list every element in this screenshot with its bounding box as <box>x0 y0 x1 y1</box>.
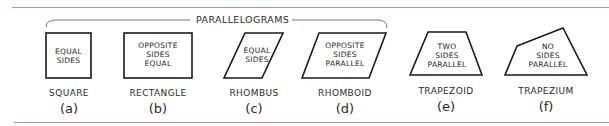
trapezoid-letter: (e) <box>406 99 486 114</box>
square-description: EQUAL SIDES <box>46 47 91 65</box>
square-name: SQUARE <box>33 88 105 98</box>
trapezium-letter: (f) <box>506 99 586 114</box>
square-letter: (a) <box>33 101 105 116</box>
trapezium-description: NO SIDES PARALLEL <box>515 42 581 69</box>
trapezoid-name: TRAPEZOID <box>406 86 486 96</box>
trapezoid-description: TWO SIDES PARALLEL <box>414 42 480 69</box>
rectangle-letter: (b) <box>118 101 198 116</box>
rhombus-name: RHOMBUS <box>218 88 290 98</box>
rhombus-description: EQUAL SIDES <box>232 46 282 64</box>
rectangle-description: OPPOSITE SIDES EQUAL <box>124 41 192 68</box>
rhomboid-description: OPPOSITE SIDES PARALLEL <box>312 41 378 68</box>
rhombus-letter: (c) <box>218 101 290 116</box>
rectangle-name: RECTANGLE <box>118 88 198 98</box>
trapezium-name: TRAPEZIUM <box>506 86 586 96</box>
rhomboid-letter: (d) <box>305 101 385 116</box>
rhomboid-name: RHOMBOID <box>305 88 385 98</box>
parallelograms-label: PARALLELOGRAMS <box>193 14 292 25</box>
